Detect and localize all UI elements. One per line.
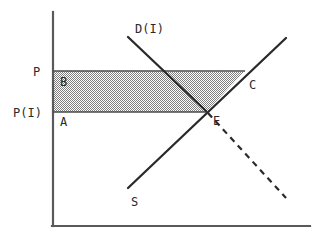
point-label-a: A [60,115,68,129]
diagram-canvas: P P(I) B A C E S D(I) [0,0,314,242]
curve-label-supply: S [131,195,138,209]
point-label-b: B [60,75,67,89]
point-label-c: C [249,78,256,92]
price-label-domestic: P(I) [13,106,42,120]
price-label-world: P [33,65,40,79]
curve-label-demand: D(I) [135,22,164,36]
point-label-e: E [213,114,220,128]
supply-demand-diagram: P P(I) B A C E S D(I) [0,0,314,242]
